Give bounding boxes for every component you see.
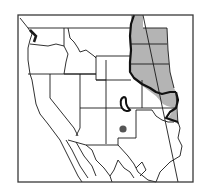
range-map: Range map xyxy=(0,0,197,194)
disjunct-population-outline xyxy=(121,97,130,111)
point-record-dot xyxy=(119,125,126,132)
map-canvas xyxy=(0,0,197,194)
main-range-area xyxy=(129,15,178,122)
